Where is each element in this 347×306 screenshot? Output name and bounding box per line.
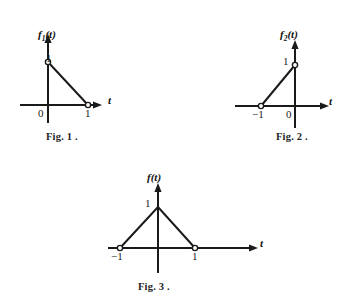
fig-1-signal-line — [48, 62, 88, 105]
fig-2-signal-line — [261, 65, 295, 106]
fig-1-y-tick-label-1: 1 — [46, 52, 52, 64]
fig-1-x-axis-arrow — [93, 101, 102, 108]
fig-3-x-axis-arrow — [249, 244, 258, 251]
fig-3-x-axis-label: t — [260, 237, 263, 249]
fig-3-function-label: f(t) — [136, 159, 161, 198]
fig-2-x-tick-label-minus1: −1 — [252, 108, 264, 120]
fig-3-caption: Fig. 3 . — [138, 281, 170, 292]
fig-2-x-axis-arrow — [320, 102, 329, 109]
fig-3-x-tick-label-1: 1 — [192, 250, 198, 262]
fig-3-y-tick-label-1: 1 — [145, 197, 151, 209]
fig-2-x-tick-label-0: 0 — [286, 108, 292, 120]
fig-2-function-arg: (t) — [287, 28, 297, 40]
figure-1: f1(t) 1 0 1 t Fig. 1 . — [0, 0, 173, 153]
fig-1-caption: Fig. 1 . — [46, 131, 78, 142]
fig-1-function-label: f1(t) — [27, 16, 56, 55]
fig-1-x-tick-label-0: 0 — [38, 107, 44, 119]
fig-2-function-label: f2(t) — [269, 16, 298, 55]
fig-3-function-arg: (t) — [151, 171, 161, 183]
fig-1-x-axis-label: t — [108, 94, 111, 106]
fig-2-y-tick-label-1: 1 — [283, 55, 289, 67]
fig-1-x-tick-label-1: 1 — [85, 107, 91, 119]
fig-1-function-arg: (t) — [45, 28, 55, 40]
fig-2-caption: Fig. 2 . — [276, 131, 308, 142]
fig-2-endpoint-open-circle-end — [292, 62, 297, 67]
figure-3: f(t) 1 −1 1 t Fig. 3 . — [88, 153, 288, 306]
fig-3-x-tick-label-minus1: −1 — [111, 250, 123, 262]
figure-2: f2(t) 1 −1 0 t Fig. 2 . — [173, 0, 347, 153]
fig-2-x-axis-label: t — [329, 95, 332, 107]
